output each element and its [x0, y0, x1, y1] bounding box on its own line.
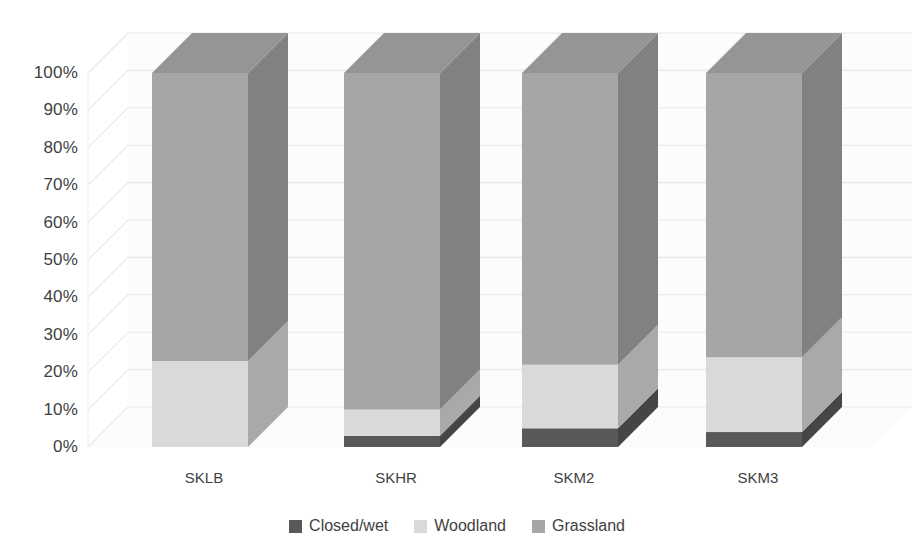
y-axis-tick-label: 30%	[0, 326, 78, 343]
bar-segment-front	[344, 410, 440, 436]
bar-column	[344, 33, 480, 447]
bar-segment-front	[706, 73, 802, 357]
bar-segment-front	[522, 73, 618, 365]
bar-segment-front	[344, 73, 440, 410]
x-axis: SKLBSKHRSKM2SKM3	[0, 470, 914, 504]
legend-item[interactable]: Grassland	[532, 518, 625, 534]
bar-segment-side	[440, 33, 480, 410]
legend-item[interactable]: Closed/wet	[289, 518, 388, 534]
legend-swatch-icon	[414, 520, 427, 533]
y-axis: 100%90%80%70%60%50%40%30%20%10%0%	[0, 0, 78, 470]
bar-segment-side	[248, 33, 288, 361]
legend-swatch-icon	[532, 520, 545, 533]
x-axis-tick-label: SKM2	[514, 470, 634, 485]
bar-segment-side	[618, 33, 658, 365]
y-axis-tick-label: 0%	[0, 438, 78, 455]
legend-item[interactable]: Woodland	[414, 518, 506, 534]
bar-column	[706, 33, 842, 447]
legend-item-label: Grassland	[552, 518, 625, 534]
x-axis-tick-label: SKLB	[144, 470, 264, 485]
y-axis-tick-label: 10%	[0, 401, 78, 418]
bar-segment-front	[152, 73, 248, 361]
y-axis-tick-label: 70%	[0, 176, 78, 193]
y-axis-tick-label: 50%	[0, 251, 78, 268]
y-axis-tick-label: 40%	[0, 288, 78, 305]
legend-item-label: Woodland	[434, 518, 506, 534]
legend-swatch-icon	[289, 520, 302, 533]
y-axis-tick-label: 80%	[0, 139, 78, 156]
bar-segment-front	[152, 361, 248, 447]
bar-segment-front	[706, 357, 802, 432]
bar-column	[522, 33, 658, 447]
y-axis-tick-label: 100%	[0, 64, 78, 81]
bar-segment-front	[522, 365, 618, 429]
bar-segment-side	[802, 33, 842, 357]
bar-segment-front	[344, 436, 440, 447]
x-axis-tick-label: SKM3	[698, 470, 818, 485]
x-axis-tick-label: SKHR	[336, 470, 456, 485]
y-axis-tick-label: 90%	[0, 101, 78, 118]
y-axis-tick-label: 20%	[0, 363, 78, 380]
stacked-column-chart: 100%90%80%70%60%50%40%30%20%10%0% SKLBSK…	[0, 0, 914, 553]
y-axis-tick-label: 60%	[0, 214, 78, 231]
legend-item-label: Closed/wet	[309, 518, 388, 534]
bar-segment-front	[522, 428, 618, 447]
chart-legend: Closed/wetWoodlandGrassland	[0, 518, 914, 534]
bar-segment-front	[706, 432, 802, 447]
bar-column	[152, 33, 288, 447]
